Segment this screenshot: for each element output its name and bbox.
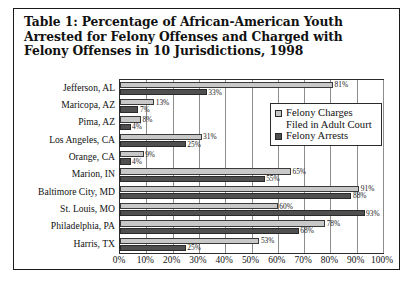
bar-group: 65%55% [120,167,383,184]
bar-felony-arrests [120,228,299,234]
legend-item-felony-charges: Felony Charges Filed in Adult Court [275,107,377,130]
bar-value-label: 31% [203,133,217,140]
category-label: Philadelphia, PA [51,221,115,231]
bar-value-label: 68% [300,227,314,234]
bar-value-label: 13% [156,99,170,106]
x-tick-label: 0% [113,256,126,265]
x-axis-tick-labels: 0%10%20%30%40%50%60%70%80%90%100% [119,256,384,270]
figure-container: Table 1: Percentage of African-American … [13,8,400,270]
category-label: Harris, TX [74,239,115,249]
legend-label-felony-arrests: Felony Arrests [286,130,377,142]
bar-group: 78%68% [120,218,383,235]
gridline [383,80,384,253]
bar-value-label: 65% [292,168,306,175]
bar-felony-arrests [120,176,265,182]
bar-group: 9%4% [120,149,383,166]
bar-value-label: 4% [132,123,142,130]
bar-felony-charges [120,203,278,209]
bar-felony-arrests [120,210,365,216]
x-tick-label: 40% [216,256,233,265]
x-tick-label: 70% [295,256,312,265]
x-tick-label: 10% [137,256,154,265]
category-label: Marion, IN [72,169,115,179]
category-label: Orange, CA [69,152,115,162]
bar-felony-charges [120,82,333,88]
bar-value-label: 81% [335,81,349,88]
category-label: Los Angeles, CA [49,135,115,145]
category-label: Jefferson, AL [63,83,115,93]
bar-value-label: 7% [140,106,150,113]
bar-felony-arrests [120,106,138,112]
bar-felony-charges [120,220,325,226]
chart-area: Jefferson, ALMaricopa, AZPima, AZLos Ang… [14,9,401,271]
bar-value-label: 25% [187,244,201,251]
bar-felony-arrests [120,193,351,199]
bar-value-label: 78% [327,220,341,227]
bar-value-label: 88% [353,192,367,199]
bar-value-label: 60% [279,203,293,210]
x-tick-label: 30% [189,256,206,265]
x-tick-label: 90% [347,256,364,265]
x-tick-label: 100% [371,256,393,265]
bar-group: 91%88% [120,184,383,201]
legend-item-felony-arrests: Felony Arrests [275,130,377,142]
bar-value-label: 55% [266,175,280,182]
x-tick-label: 20% [163,256,180,265]
bar-felony-arrests [120,89,207,95]
x-tick-label: 80% [321,256,338,265]
bar-felony-arrests [120,124,131,130]
bar-felony-charges [120,186,359,192]
x-tick-label: 50% [242,256,259,265]
bar-value-label: 9% [145,151,155,158]
legend-swatch-felony-arrests-icon [275,133,282,140]
bar-value-label: 25% [187,141,201,148]
bar-value-label: 33% [208,89,222,96]
bar-felony-arrests [120,141,186,147]
bar-value-label: 4% [132,158,142,165]
bar-value-label: 8% [143,116,153,123]
bar-value-label: 93% [366,210,380,217]
chart-legend: Felony Charges Filed in Adult Court Felo… [270,103,382,146]
bar-felony-arrests [120,158,131,164]
category-axis-labels: Jefferson, ALMaricopa, AZPima, AZLos Ang… [14,79,115,254]
category-label: St. Louis, MO [60,204,115,214]
category-label: Baltimore City, MD [38,187,115,197]
bar-value-label: 53% [261,237,275,244]
bar-felony-arrests [120,245,186,251]
x-tick-label: 60% [268,256,285,265]
legend-label-felony-charges: Felony Charges Filed in Adult Court [286,107,377,130]
bar-group: 60%93% [120,201,383,218]
category-label: Pima, AZ [78,117,115,127]
bar-group: 53%25% [120,236,383,253]
category-label: Maricopa, AZ [61,100,115,110]
bar-group: 81%33% [120,80,383,97]
legend-swatch-felony-charges-icon [275,110,282,117]
